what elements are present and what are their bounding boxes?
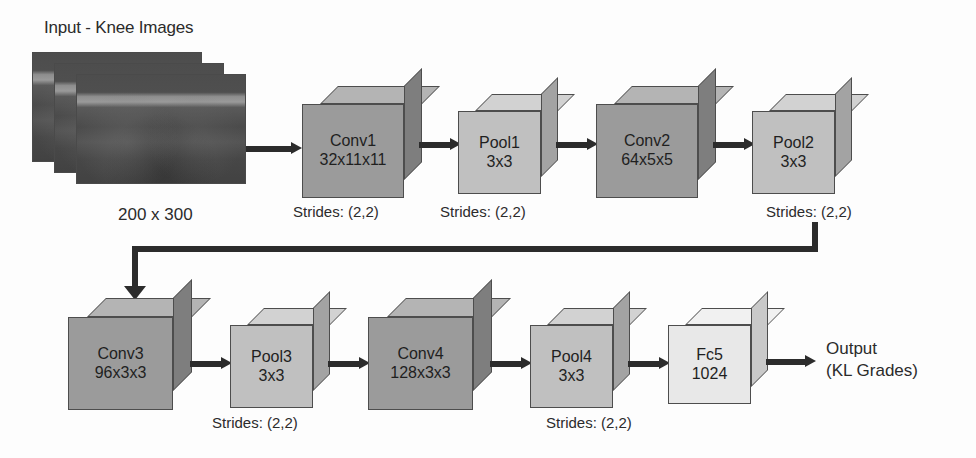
cube-front-face: Pool4 3x3 — [530, 325, 613, 408]
strides-label-pool2: Strides: (2,2) — [766, 203, 852, 220]
cube-top-face — [320, 86, 440, 104]
layer-name: Conv4 — [397, 345, 443, 364]
input-image-stack — [32, 52, 262, 202]
cube-top-face — [614, 86, 734, 104]
layer-name: Pool4 — [551, 348, 592, 367]
cube-top-face — [247, 308, 347, 325]
layer-block-conv3[interactable]: Conv3 96x3x3 — [68, 298, 192, 410]
layer-name: Pool1 — [479, 134, 520, 153]
cube-side-face — [173, 279, 192, 391]
layer-block-conv2[interactable]: Conv2 64x5x5 — [596, 86, 716, 198]
layer-dimensions: 128x3x3 — [390, 364, 451, 383]
cube-side-face — [404, 68, 422, 180]
output-label-line2: (KL Grades) — [826, 360, 918, 382]
cube-side-face — [613, 291, 630, 391]
layer-block-conv1[interactable]: Conv1 32x11x11 — [302, 86, 422, 198]
wrap-connector-horizontal — [132, 246, 818, 252]
cube-side-face — [835, 77, 852, 177]
layer-name: Pool3 — [251, 348, 292, 367]
input-title: Input - Knee Images — [44, 18, 193, 38]
layer-dimensions: 1024 — [692, 365, 728, 384]
cube-side-face — [473, 279, 492, 391]
cube-front-face: Pool1 3x3 — [458, 111, 541, 194]
cube-front-face: Conv2 64x5x5 — [596, 104, 698, 198]
arrow-pool4-to-fc5 — [628, 357, 670, 370]
cube-top-face — [547, 308, 647, 325]
cube-side-face — [313, 291, 330, 391]
cube-front-face: Fc5 1024 — [668, 325, 751, 404]
cube-front-face: Pool3 3x3 — [230, 325, 313, 408]
layer-dimensions: 3x3 — [781, 153, 807, 172]
arrow-fc5-to-output — [766, 355, 816, 368]
cube-side-face — [751, 291, 768, 387]
cube-top-face — [87, 298, 211, 317]
layer-dimensions: 32x11x11 — [319, 151, 386, 170]
cnn-architecture-diagram: Input - Knee Images 200 x 300 Conv1 32x1… — [0, 0, 976, 458]
arrow-input-to-conv1 — [246, 142, 302, 155]
cube-side-face — [541, 77, 558, 177]
cube-front-face: Conv3 96x3x3 — [68, 317, 173, 410]
arrow-conv4-to-pool4 — [490, 357, 532, 370]
layer-name: Fc5 — [696, 346, 723, 365]
layer-dimensions: 3x3 — [487, 153, 513, 172]
arrow-pool1-to-conv2 — [556, 138, 598, 151]
layer-name: Conv3 — [97, 345, 143, 364]
layer-name: Conv1 — [330, 132, 376, 151]
cube-top-face — [685, 308, 785, 325]
layer-dimensions: 64x5x5 — [621, 151, 673, 170]
cube-side-face — [698, 68, 716, 180]
output-label: Output (KL Grades) — [826, 338, 918, 383]
cube-front-face: Conv4 128x3x3 — [368, 317, 473, 410]
strides-label-pool4: Strides: (2,2) — [546, 414, 632, 431]
layer-dimensions: 96x3x3 — [95, 364, 147, 383]
arrow-pool3-to-conv4 — [328, 357, 370, 370]
arrow-conv2-to-pool2 — [713, 138, 755, 151]
layer-block-pool1[interactable]: Pool1 3x3 — [458, 94, 558, 194]
wrap-connector-vertical-left — [132, 246, 138, 288]
input-dimensions-label: 200 x 300 — [118, 205, 193, 225]
layer-block-pool3[interactable]: Pool3 3x3 — [230, 308, 330, 408]
strides-label-pool1: Strides: (2,2) — [440, 203, 526, 220]
layer-name: Conv2 — [624, 132, 670, 151]
layer-dimensions: 3x3 — [259, 367, 285, 386]
cube-front-face: Pool2 3x3 — [752, 111, 835, 194]
arrow-conv1-to-pool1 — [419, 138, 461, 151]
layer-block-fc5[interactable]: Fc5 1024 — [668, 308, 768, 404]
strides-label-pool3: Strides: (2,2) — [212, 414, 298, 431]
cube-front-face: Conv1 32x11x11 — [302, 104, 404, 198]
layer-name: Pool2 — [773, 134, 814, 153]
cube-top-face — [387, 298, 511, 317]
cube-top-face — [475, 94, 575, 111]
output-label-line1: Output — [826, 338, 918, 360]
arrow-conv3-to-pool3 — [190, 357, 232, 370]
strides-label-conv1: Strides: (2,2) — [293, 203, 379, 220]
layer-dimensions: 3x3 — [559, 367, 585, 386]
knee-xray-image — [76, 74, 246, 184]
cube-top-face — [769, 94, 869, 111]
layer-block-pool2[interactable]: Pool2 3x3 — [752, 94, 852, 194]
layer-block-pool4[interactable]: Pool4 3x3 — [530, 308, 630, 408]
layer-block-conv4[interactable]: Conv4 128x3x3 — [368, 298, 492, 410]
